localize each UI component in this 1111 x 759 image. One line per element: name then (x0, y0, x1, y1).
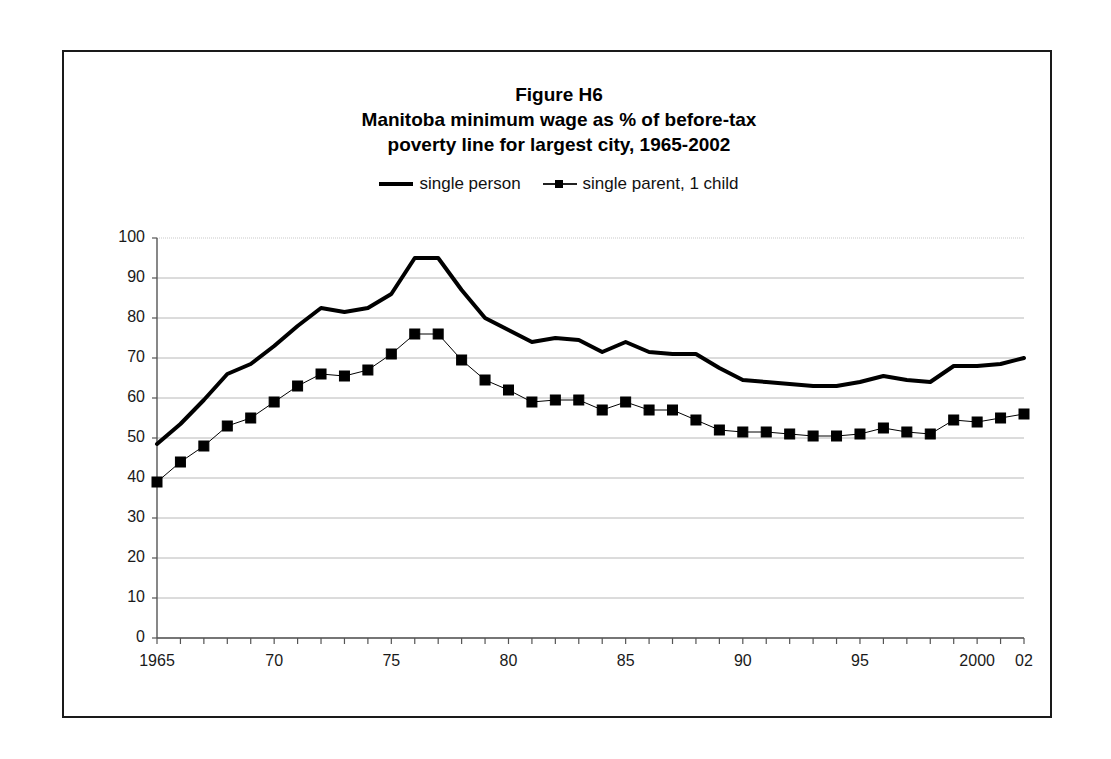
plot-area: 0102030405060708090100 19657075808590952… (64, 52, 1054, 720)
data-point-marker (902, 427, 912, 437)
x-tick-label-02: 02 (994, 652, 1054, 670)
data-point-marker (269, 397, 279, 407)
gridlines-group (157, 238, 1024, 638)
data-point-marker (949, 415, 959, 425)
data-point-marker (668, 405, 678, 415)
y-tick-label-80: 80 (99, 308, 145, 326)
data-series-group (152, 258, 1029, 487)
x-tick-label-85: 85 (596, 652, 656, 670)
data-point-marker (433, 329, 443, 339)
data-point-marker (738, 427, 748, 437)
x-tick-label-70: 70 (244, 652, 304, 670)
data-point-marker (621, 397, 631, 407)
y-tick-label-30: 30 (99, 508, 145, 526)
data-point-marker (199, 441, 209, 451)
data-point-marker (550, 395, 560, 405)
data-point-marker (503, 385, 513, 395)
data-point-marker (339, 371, 349, 381)
data-point-marker (714, 425, 724, 435)
data-point-marker (972, 417, 982, 427)
figure-frame: Figure H6 Manitoba minimum wage as % of … (62, 50, 1052, 718)
figure-page: Figure H6 Manitoba minimum wage as % of … (0, 0, 1111, 759)
x-tick-label-80: 80 (478, 652, 538, 670)
y-tick-label-20: 20 (99, 548, 145, 566)
data-point-marker (1019, 409, 1029, 419)
x-tick-label-1965: 1965 (127, 652, 187, 670)
data-point-marker (785, 429, 795, 439)
series-line-single-person (157, 258, 1024, 444)
data-point-marker (386, 349, 396, 359)
data-point-marker (457, 355, 467, 365)
x-tick-label-90: 90 (713, 652, 773, 670)
data-point-marker (527, 397, 537, 407)
data-point-marker (363, 365, 373, 375)
data-point-marker (855, 429, 865, 439)
y-tick-label-100: 100 (99, 228, 145, 246)
data-point-marker (152, 477, 162, 487)
y-tick-label-40: 40 (99, 468, 145, 486)
data-point-marker (691, 415, 701, 425)
data-point-marker (480, 375, 490, 385)
data-point-marker (925, 429, 935, 439)
data-point-marker (597, 405, 607, 415)
x-tick-label-95: 95 (830, 652, 890, 670)
chart-svg (64, 52, 1054, 720)
data-point-marker (246, 413, 256, 423)
data-point-marker (878, 423, 888, 433)
data-point-marker (574, 395, 584, 405)
data-point-marker (316, 369, 326, 379)
series-line-single-parent-1-child (157, 334, 1024, 482)
y-tick-label-50: 50 (99, 428, 145, 446)
y-tick-label-90: 90 (99, 268, 145, 286)
y-tick-label-10: 10 (99, 588, 145, 606)
data-point-marker (410, 329, 420, 339)
data-point-marker (761, 427, 771, 437)
data-point-marker (175, 457, 185, 467)
data-point-marker (293, 381, 303, 391)
data-point-marker (222, 421, 232, 431)
data-point-marker (644, 405, 654, 415)
data-point-marker (808, 431, 818, 441)
y-tick-label-0: 0 (99, 628, 145, 646)
y-tick-label-60: 60 (99, 388, 145, 406)
y-tick-label-70: 70 (99, 348, 145, 366)
y-tick-marks-group (152, 238, 157, 638)
data-point-marker (996, 413, 1006, 423)
data-point-marker (832, 431, 842, 441)
x-tick-marks-group (157, 638, 1024, 644)
x-tick-label-75: 75 (361, 652, 421, 670)
